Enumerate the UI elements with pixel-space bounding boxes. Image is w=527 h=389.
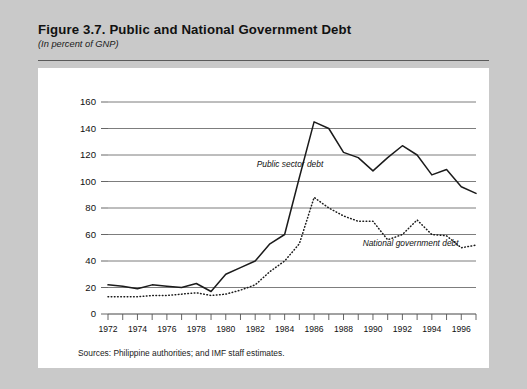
svg-text:1980: 1980 <box>216 324 235 334</box>
svg-text:1992: 1992 <box>393 324 412 334</box>
x-axis-ticks <box>108 314 476 320</box>
svg-text:1972: 1972 <box>98 324 117 334</box>
svg-text:1974: 1974 <box>128 324 147 334</box>
svg-text:0: 0 <box>91 308 96 319</box>
svg-text:1994: 1994 <box>422 324 441 334</box>
svg-text:20: 20 <box>85 282 96 293</box>
source-note: Sources: Philippine authorities; and IMF… <box>78 348 285 358</box>
figure-subtitle: (In percent of GNP) <box>38 39 488 49</box>
svg-text:1976: 1976 <box>157 324 176 334</box>
series-label: Public sector debt <box>257 159 324 169</box>
svg-text:80: 80 <box>85 202 96 213</box>
x-axis-labels: 1972197419761978198019821984198619881990… <box>98 324 471 334</box>
series-annotations: Public sector debtNational government de… <box>257 159 460 249</box>
svg-text:40: 40 <box>85 255 96 266</box>
svg-text:160: 160 <box>80 96 96 107</box>
svg-text:1990: 1990 <box>363 324 382 334</box>
y-axis-labels: 020406080100120140160 <box>80 96 96 319</box>
gridlines <box>108 102 476 288</box>
figure-card: Figure 3.7. Public and National Governme… <box>26 12 501 377</box>
page-title: Figure 3.7. Public and National Governme… <box>38 22 488 37</box>
svg-text:100: 100 <box>80 176 96 187</box>
series-label: National government debt <box>363 238 460 248</box>
svg-text:1996: 1996 <box>452 324 471 334</box>
svg-text:1986: 1986 <box>305 324 324 334</box>
line-chart: 020406080100120140160 197219741976197819… <box>38 68 489 368</box>
svg-text:1982: 1982 <box>246 324 265 334</box>
svg-text:60: 60 <box>85 229 96 240</box>
y-axis-ticks <box>101 102 108 314</box>
figure-header: Figure 3.7. Public and National Governme… <box>38 22 488 49</box>
svg-text:1984: 1984 <box>275 324 294 334</box>
svg-text:120: 120 <box>80 149 96 160</box>
plot-card: 020406080100120140160 197219741976197819… <box>38 68 489 368</box>
series-lines <box>108 122 476 297</box>
series-solid <box>108 122 476 292</box>
svg-text:1988: 1988 <box>334 324 353 334</box>
svg-text:1978: 1978 <box>187 324 206 334</box>
svg-text:140: 140 <box>80 123 96 134</box>
title-divider <box>38 60 489 61</box>
